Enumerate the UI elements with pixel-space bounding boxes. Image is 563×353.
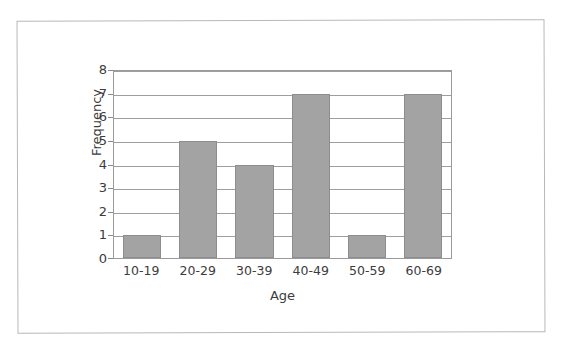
y-tick-mark-6 [108, 117, 113, 118]
y-tick-mark-7 [108, 94, 113, 95]
bar-slot-20-29 [170, 71, 226, 258]
plot-area [113, 70, 452, 259]
y-tick-mark-4 [108, 165, 113, 166]
y-tick-mark-0 [108, 258, 113, 259]
x-axis-title: Age [113, 288, 452, 303]
y-axis-title: Frequency [89, 73, 104, 173]
y-tick-label-3: 3 [87, 181, 107, 194]
x-tick-label-50-59: 50-59 [339, 264, 396, 278]
y-tick-mark-2 [108, 212, 113, 213]
x-tick-label-30-39: 30-39 [226, 264, 283, 278]
x-tick-label-40-49: 40-49 [283, 264, 340, 278]
y-tick-mark-3 [108, 188, 113, 189]
bar-slot-60-69 [395, 71, 451, 258]
x-tick-label-60-69: 60-69 [396, 264, 453, 278]
y-tick-label-1: 1 [87, 228, 107, 241]
x-tick-label-20-29: 20-29 [170, 264, 227, 278]
y-tick-label-2: 2 [87, 205, 107, 218]
bar-slot-50-59 [339, 71, 395, 258]
x-axis-ticks: 10-19 20-29 30-39 40-49 50-59 60-69 [113, 264, 452, 278]
y-tick-label-0: 0 [87, 252, 107, 265]
bar-10-19[interactable] [123, 235, 161, 258]
y-tick-mark-5 [108, 141, 113, 142]
bar-20-29[interactable] [179, 141, 217, 258]
histogram-chart: 8 7 6 5 4 3 2 1 0 10-19 20-29 30-39 40-4… [0, 0, 563, 353]
bar-50-59[interactable] [348, 235, 386, 258]
bar-40-49[interactable] [292, 94, 330, 258]
bar-60-69[interactable] [404, 94, 442, 258]
chart-page: { "chart_data": { "type": "bar", "title"… [0, 0, 563, 353]
x-tick-label-10-19: 10-19 [113, 264, 170, 278]
y-tick-mark-1 [108, 235, 113, 236]
bar-slot-30-39 [226, 71, 282, 258]
y-tick-mark-8 [108, 70, 113, 71]
bar-slot-40-49 [283, 71, 339, 258]
bar-30-39[interactable] [235, 165, 273, 259]
bar-slot-10-19 [114, 71, 170, 258]
bar-group [114, 71, 451, 258]
